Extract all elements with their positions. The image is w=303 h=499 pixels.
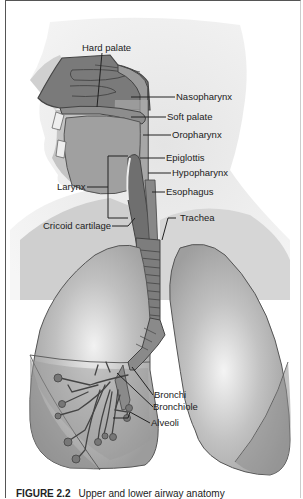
label-soft-palate: Soft palate	[167, 112, 212, 122]
caption-text: Upper and lower airway anatomy	[78, 488, 224, 499]
label-epiglottis: Epiglottis	[166, 153, 205, 163]
label-cricoid-cartilage: Cricoid cartilage	[43, 221, 111, 231]
label-bronchi: Bronchi	[154, 390, 186, 400]
label-trachea: Trachea	[180, 213, 215, 223]
figure-caption: FIGURE 2.2Upper and lower airway anatomy	[16, 488, 225, 499]
label-hypopharynx: Hypopharynx	[172, 168, 228, 178]
label-hard-palate: Hard palate	[82, 43, 131, 53]
caption-label: FIGURE 2.2	[16, 488, 70, 499]
label-nasopharynx: Nasopharynx	[176, 92, 232, 102]
label-larynx: Larynx	[57, 182, 86, 192]
label-bronchiole: Bronchiole	[153, 402, 198, 412]
label-esophagus: Esophagus	[166, 187, 214, 197]
label-alveoli: Alveoli	[151, 418, 179, 428]
label-oropharynx: Oropharynx	[172, 130, 222, 140]
